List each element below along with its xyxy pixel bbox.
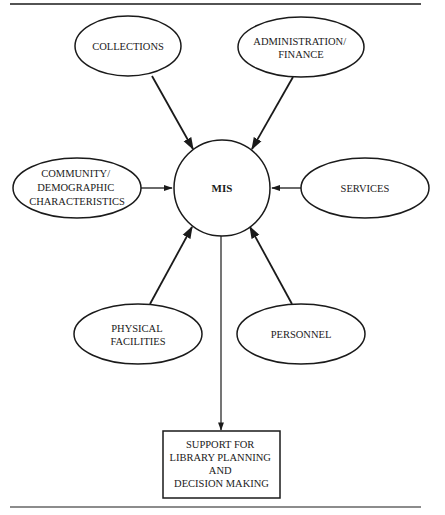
physical-label-line2: FACILITIES (110, 336, 165, 347)
admin-ellipse (238, 17, 364, 77)
personnel-label: PERSONNEL (271, 329, 332, 340)
edge-admin-mis (252, 77, 293, 149)
physical-ellipse (74, 304, 202, 364)
node-services: SERVICES (301, 158, 429, 218)
svg-text:MIS: MIS (212, 182, 233, 194)
svg-text:COMMUNITY/ DEMOGRAPHIC: COMMUNITY/ DEMOGRAPHIC CHARACTERISTICS (29, 168, 125, 207)
physical-label-line1: PHYSICAL (111, 323, 162, 334)
support-label-line2: LIBRARY PLANNING (169, 452, 271, 463)
svg-text:SERVICES: SERVICES (341, 183, 390, 194)
node-community-demographic: COMMUNITY/ DEMOGRAPHIC CHARACTERISTICS (13, 158, 141, 218)
edge-physical-mis (150, 227, 192, 304)
collections-label: COLLECTIONS (92, 41, 164, 52)
svg-text:PERSONNEL: PERSONNEL (271, 329, 332, 340)
node-personnel: PERSONNEL (237, 304, 365, 364)
edges (141, 76, 301, 430)
admin-label-line1: ADMINISTRATION/ (253, 36, 346, 47)
node-collections: COLLECTIONS (75, 16, 181, 76)
mis-label: MIS (212, 182, 233, 194)
community-label-line3: CHARACTERISTICS (29, 196, 125, 207)
svg-text:COLLECTIONS: COLLECTIONS (92, 41, 164, 52)
community-label-line1: COMMUNITY/ (41, 168, 110, 179)
edge-collections-mis (152, 76, 193, 149)
admin-label-line2: FINANCE (278, 49, 324, 60)
support-label-line1: SUPPORT FOR (186, 439, 254, 450)
mis-diagram: COLLECTIONS ADMINISTRATION/ FINANCE COMM… (0, 0, 445, 515)
support-label-line4: DECISION MAKING (174, 478, 269, 489)
node-administration-finance: ADMINISTRATION/ FINANCE (238, 17, 364, 77)
node-physical-facilities: PHYSICAL FACILITIES (74, 304, 202, 364)
community-label-line2: DEMOGRAPHIC (37, 182, 114, 193)
edge-personnel-mis (250, 227, 292, 304)
node-support-box: SUPPORT FOR LIBRARY PLANNING AND DECISIO… (163, 431, 280, 498)
services-label: SERVICES (341, 183, 390, 194)
support-label-line3: AND (209, 465, 232, 476)
node-mis: MIS (174, 140, 270, 236)
